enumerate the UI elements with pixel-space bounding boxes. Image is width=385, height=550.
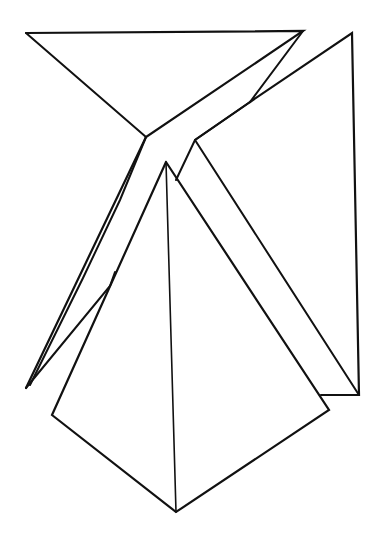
right-face-diagonal xyxy=(195,140,359,395)
pyramid-ridge xyxy=(166,162,176,512)
right-face xyxy=(250,33,359,395)
polyhedra-drawing xyxy=(0,0,385,550)
left-face-diagonal xyxy=(26,33,146,137)
left-strip xyxy=(176,31,303,180)
pyramid-outline xyxy=(52,162,329,512)
right-inner-top xyxy=(195,102,250,140)
left-inner-fold xyxy=(26,272,115,388)
left-folded-face xyxy=(26,31,303,388)
